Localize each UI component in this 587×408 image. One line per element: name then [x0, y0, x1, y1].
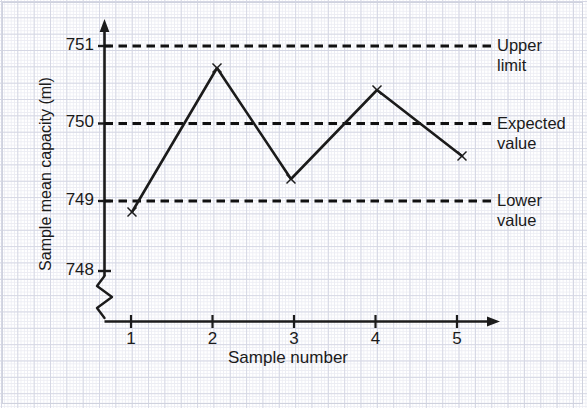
- data-point-3: [287, 175, 296, 184]
- chart-screenshot: 751 750 749 748 1 2 3 4 5 Sample number …: [0, 0, 587, 408]
- x-tick-label-4: 4: [363, 330, 389, 348]
- x-axis: [105, 317, 501, 327]
- data-point-5: [458, 152, 467, 161]
- reference-lines: [105, 46, 493, 201]
- x-tick-label-2: 2: [200, 330, 226, 348]
- x-axis-title: Sample number: [228, 349, 348, 367]
- data-series-line: [132, 68, 462, 212]
- lower-value-label-line1: Lower: [497, 191, 542, 210]
- data-point-2: [213, 64, 222, 73]
- upper-limit-label-line1: Upper: [497, 36, 542, 55]
- lower-value-label-line2: value: [497, 211, 536, 230]
- x-tick-label-5: 5: [444, 330, 470, 348]
- expected-value-label-line2: value: [497, 134, 536, 153]
- y-axis-break-symbol: [97, 276, 112, 318]
- x-tick-label-3: 3: [281, 330, 307, 348]
- upper-limit-label-line2: limit: [497, 56, 526, 75]
- y-axis-title: Sample mean capacity (ml): [37, 49, 55, 299]
- expected-value-label-line1: Expected: [497, 114, 566, 133]
- data-point-1: [128, 208, 137, 217]
- y-axis: [100, 19, 110, 276]
- x-tick-label-1: 1: [118, 330, 144, 348]
- data-point-markers: [128, 64, 467, 217]
- data-point-4: [373, 86, 382, 95]
